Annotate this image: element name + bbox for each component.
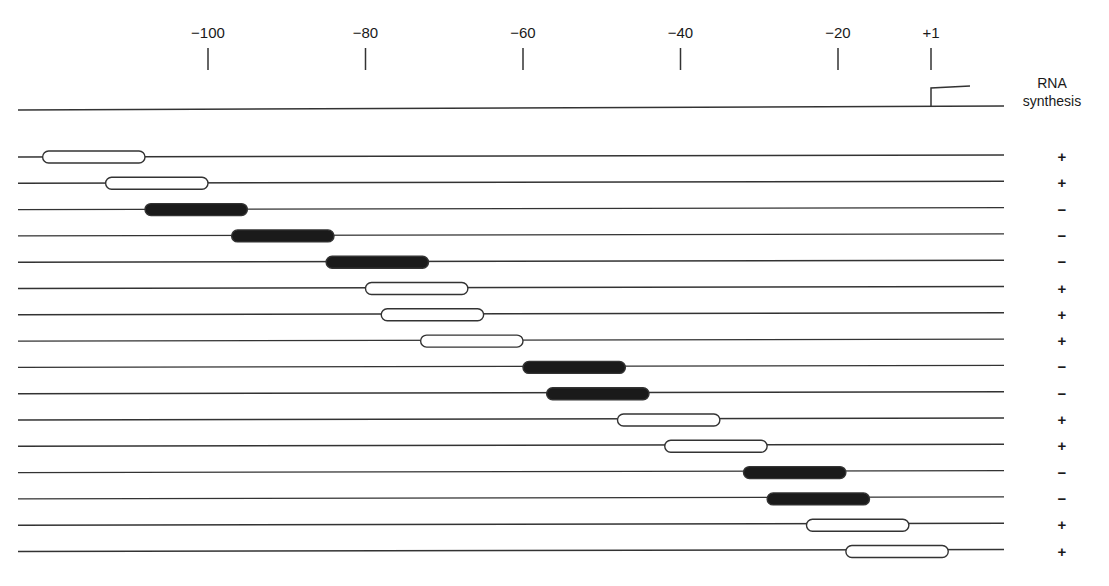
rna-synthesis-result: + (1058, 437, 1067, 454)
rna-synthesis-result: + (1058, 174, 1067, 191)
mutant-row: + (18, 306, 1067, 323)
dna-line (18, 260, 1004, 262)
rna-synthesis-result: − (1058, 464, 1067, 481)
dna-line (18, 392, 1004, 394)
mutation-box-open (846, 546, 948, 558)
mutation-box-filled (744, 467, 846, 479)
mutation-box-open (421, 335, 523, 347)
mutation-box-open (618, 414, 720, 426)
mutation-box-filled (326, 256, 428, 268)
mutant-row: + (18, 411, 1067, 428)
rna-synthesis-result: + (1058, 332, 1067, 349)
mutant-row: + (18, 174, 1067, 191)
mutation-box-filled (523, 361, 625, 373)
mutant-row: + (18, 280, 1067, 297)
rna-synthesis-result: − (1058, 385, 1067, 402)
axis-tick-label: +1 (922, 24, 939, 41)
rna-synthesis-header-line1: RNA (1037, 75, 1067, 91)
mutant-row: − (18, 358, 1067, 375)
mutant-row: + (18, 148, 1067, 165)
dna-line (18, 155, 1004, 157)
dna-line (18, 234, 1004, 236)
mutant-row: − (18, 464, 1067, 481)
mutation-box-open (366, 283, 468, 295)
dna-line (18, 313, 1004, 315)
dna-line (18, 365, 1004, 367)
rna-synthesis-header-line2: synthesis (1023, 93, 1081, 109)
mutation-box-filled (547, 388, 649, 400)
dna-line (18, 444, 1004, 446)
mutant-row: − (18, 490, 1067, 507)
axis-tick-label: −40 (668, 24, 693, 41)
dna-line (18, 471, 1004, 473)
mutation-box-filled (232, 230, 334, 242)
mutant-rows: ++−−−+++−−++−−++ (18, 148, 1067, 560)
rna-synthesis-result: − (1058, 358, 1067, 375)
mutant-row: − (18, 201, 1067, 218)
mutation-box-open (381, 309, 483, 321)
rna-synthesis-result: + (1058, 280, 1067, 297)
rna-synthesis-result: − (1058, 490, 1067, 507)
rna-synthesis-result: + (1058, 516, 1067, 533)
axis-tick-label: −80 (353, 24, 378, 41)
axis-tick-label: −60 (510, 24, 535, 41)
mutant-row: + (18, 543, 1067, 560)
mutant-row: − (18, 385, 1067, 402)
mutant-row: − (18, 227, 1067, 244)
rna-synthesis-result: + (1058, 306, 1067, 323)
mutation-box-filled (145, 204, 247, 216)
mutant-row: + (18, 332, 1067, 349)
rna-synthesis-result: − (1058, 227, 1067, 244)
axis-tick-label: −20 (825, 24, 850, 41)
wild-type-dna-line (18, 106, 1004, 110)
mutation-box-filled (767, 493, 869, 505)
transcription-start-arrow (931, 86, 970, 106)
mutation-box-open (106, 177, 208, 189)
axis-tick-label: −100 (191, 24, 225, 41)
promoter-mutation-diagram: −100−80−60−40−20+1 RNA synthesis ++−−−++… (0, 0, 1109, 586)
rna-synthesis-result: + (1058, 148, 1067, 165)
mutation-box-open (665, 440, 767, 452)
mutant-row: + (18, 437, 1067, 454)
rna-synthesis-result: + (1058, 411, 1067, 428)
rna-synthesis-result: + (1058, 543, 1067, 560)
mutation-box-open (807, 519, 909, 531)
rna-synthesis-result: − (1058, 253, 1067, 270)
mutation-box-open (43, 151, 145, 163)
rna-synthesis-result: − (1058, 201, 1067, 218)
position-axis: −100−80−60−40−20+1 (191, 24, 939, 70)
dna-line (18, 287, 1004, 289)
dna-line (18, 418, 1004, 420)
mutant-row: − (18, 253, 1067, 270)
mutant-row: + (18, 516, 1067, 533)
